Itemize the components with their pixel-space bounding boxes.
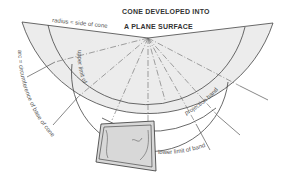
developed-sector <box>22 22 273 114</box>
cone-development-diagram: radius = side of cone arc = circumferenc… <box>0 0 289 186</box>
lower-limit-label: lower limit of band <box>158 142 206 155</box>
map-projection <box>96 121 156 171</box>
